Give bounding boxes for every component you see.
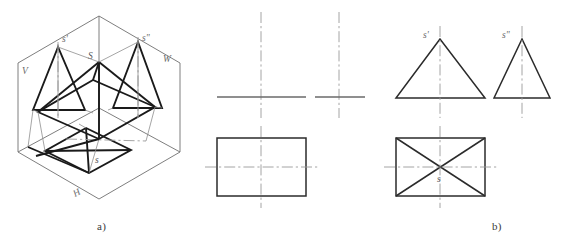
label-front-apex: s' — [423, 30, 430, 40]
figure-root: V W H s S — [0, 0, 568, 251]
label-top-center: s — [437, 174, 441, 184]
front-view-triangle — [396, 26, 485, 118]
caption-a: a) — [97, 220, 106, 232]
panel-b-drawing — [200, 0, 380, 215]
panel-a-pictorial: V W H s S — [0, 0, 200, 251]
top-view-rectangle — [205, 126, 318, 208]
panel-c-drawing: s' s" s — [380, 0, 568, 215]
pyramid-solid — [38, 62, 155, 139]
side-view-placeholder — [315, 12, 365, 118]
label-apex-side: s" — [142, 33, 151, 43]
panel-b-setup: b) — [200, 0, 380, 251]
label-apex-front: s' — [62, 34, 69, 44]
top-view-rectangle-diagonals — [384, 126, 498, 208]
label-plane-v: V — [22, 66, 29, 76]
panel-a-drawing: V W H s S — [0, 0, 200, 215]
front-view-placeholder — [217, 12, 306, 118]
label-apex-top: s — [95, 155, 99, 165]
panel-c-views: s' s" s c) — [380, 0, 568, 251]
label-side-apex: s" — [502, 30, 511, 40]
label-plane-w: W — [163, 54, 172, 64]
h-plane-centerline — [66, 139, 146, 141]
